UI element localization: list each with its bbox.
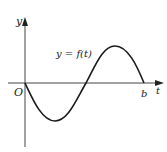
y-axis-arrow-icon: [22, 17, 28, 26]
function-graph: y O b t y = f(t): [0, 0, 167, 152]
origin-label: O: [14, 86, 23, 99]
x-axis-label: t: [156, 85, 161, 96]
b-label: b: [141, 88, 147, 99]
curve-label: y = f(t): [55, 48, 92, 59]
y-axis-label: y: [15, 15, 23, 28]
graph-svg: y O b t y = f(t): [0, 0, 167, 152]
